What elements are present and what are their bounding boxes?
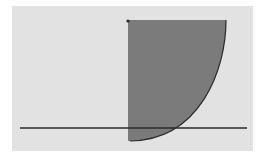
shaded-region xyxy=(128,20,226,141)
diagram-canvas xyxy=(0,0,258,153)
corner-dot xyxy=(126,19,129,22)
